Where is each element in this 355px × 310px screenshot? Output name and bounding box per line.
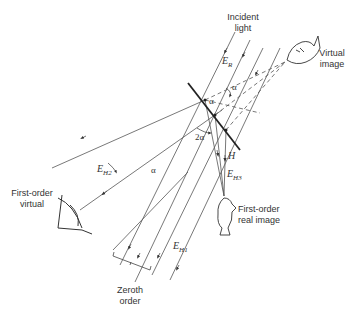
zeroth-order-line1: Zeroth <box>110 285 150 296</box>
incident-light-line1: Incident <box>218 12 268 23</box>
two-alpha-label: 2α <box>195 132 204 142</box>
first-order-virtual-label: First-order virtual <box>4 188 60 210</box>
real-image-fish-icon <box>218 198 236 235</box>
eh1-symbol: EH1 <box>173 240 188 254</box>
hologram-label: H <box>228 150 235 161</box>
virtual-image-line2: image <box>312 59 352 70</box>
alpha-mid-label: α <box>209 96 214 106</box>
zeroth-order-line2: order <box>110 296 150 307</box>
incident-ray-2 <box>135 40 250 282</box>
incident-light-label: Incident light <box>218 12 268 34</box>
incident-ray-3 <box>152 48 263 275</box>
first-order-real-line2: real image <box>238 215 294 226</box>
virtual-image-line1: Virtual <box>312 48 352 59</box>
first-order-virtual-line1: First-order <box>4 188 60 199</box>
virtual-dash-2 <box>215 62 285 115</box>
first-order-real-line1: First-order <box>238 204 294 215</box>
alpha-left-label: α <box>151 165 156 175</box>
hologram-diagram: Incident light Virtual image First-order… <box>0 0 355 310</box>
zeroth-order-ray <box>113 172 188 250</box>
incident-light-line2: light <box>218 23 268 34</box>
zeroth-order-label: Zeroth order <box>110 285 150 307</box>
eh2-ray-1 <box>52 100 205 168</box>
first-order-virtual-line2: virtual <box>4 199 60 210</box>
diagram-lines <box>0 0 355 310</box>
eye-icon <box>58 195 92 234</box>
eh3-symbol: EH3 <box>227 168 242 182</box>
er-symbol: ER <box>222 55 232 69</box>
incident-ray-1 <box>120 32 235 265</box>
virtual-image-label: Virtual image <box>312 48 352 70</box>
alpha-top-label: α <box>232 82 237 92</box>
first-order-real-label: First-order real image <box>238 204 294 226</box>
eh2-ray-2 <box>80 110 222 210</box>
eh2-symbol: EH2 <box>97 163 112 177</box>
